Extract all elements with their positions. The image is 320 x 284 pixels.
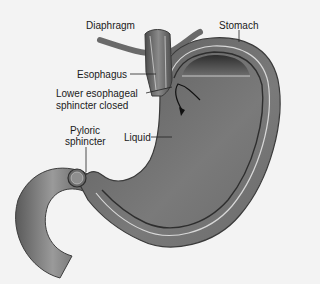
label-diaphragm: Diaphragm: [86, 20, 135, 31]
esophagus-shape: [145, 30, 172, 97]
pyloric-sphincter-inner: [71, 172, 83, 184]
label-liquid: Liquid: [124, 132, 151, 143]
label-pyloric-line2: sphincter: [65, 136, 106, 147]
label-pyloric-line1: Pyloric: [70, 125, 100, 136]
label-les-line2: sphincter closed: [56, 100, 128, 111]
label-stomach: Stomach: [219, 20, 258, 31]
label-esophagus: Esophagus: [77, 69, 127, 80]
label-les-line1: Lower esophageal: [56, 88, 138, 99]
